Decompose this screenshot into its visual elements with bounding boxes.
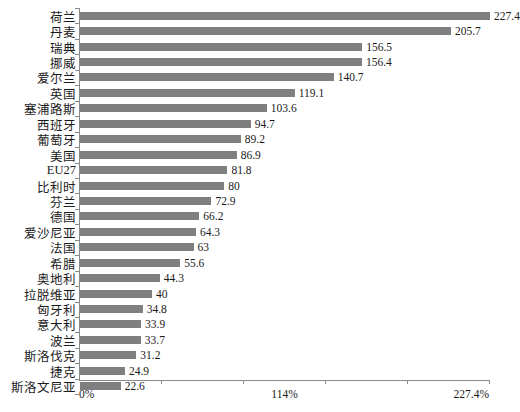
bar — [80, 228, 196, 236]
bar — [80, 58, 362, 66]
bar-value-label: 22.6 — [125, 380, 145, 392]
bar-container: 33.9 — [80, 320, 141, 328]
bar-value-label: 119.1 — [299, 87, 324, 99]
bar-container: 40 — [80, 290, 152, 298]
category-label: 美国 — [50, 145, 76, 164]
bar-value-label: 72.9 — [215, 195, 235, 207]
bar — [80, 212, 199, 220]
x-axis-tick-label: 0% — [79, 388, 94, 400]
bar — [80, 367, 125, 375]
bar-container: 31.2 — [80, 351, 136, 359]
bar — [80, 320, 141, 328]
bar — [80, 73, 334, 81]
bar — [80, 351, 136, 359]
bar-value-label: 24.9 — [129, 365, 149, 377]
bar-value-label: 205.7 — [455, 25, 481, 37]
bar-value-label: 44.3 — [164, 272, 184, 284]
bar-container: 156.4 — [80, 58, 362, 66]
bar-row: 斯洛文尼亚22.6 — [0, 379, 504, 394]
bar-container: 86.9 — [80, 151, 237, 159]
bar-container: 66.2 — [80, 212, 199, 220]
bar — [80, 243, 194, 251]
bar-value-label: 81.8 — [231, 164, 251, 176]
x-axis-tick-label: 114% — [271, 388, 297, 400]
bar-value-label: 33.9 — [145, 318, 165, 330]
bar-value-label: 55.6 — [184, 257, 204, 269]
bar-value-label: 33.7 — [145, 334, 165, 346]
bar — [80, 182, 224, 190]
bar-container: 89.2 — [80, 135, 241, 143]
bar-container: 227.4 — [80, 12, 490, 20]
bar-value-label: 66.2 — [203, 210, 223, 222]
bar — [80, 43, 362, 51]
x-axis-tick-label: 227.4% — [454, 388, 489, 400]
bar-container: 44.3 — [80, 274, 160, 282]
bar-value-label: 64.3 — [200, 226, 220, 238]
bar-container: 72.9 — [80, 197, 211, 205]
bar-row: 美国86.9 — [0, 147, 504, 162]
bar-value-label: 34.8 — [147, 303, 167, 315]
bar-container: 55.6 — [80, 259, 180, 267]
bar-container: 64.3 — [80, 228, 196, 236]
bar — [80, 259, 180, 267]
bar — [80, 135, 241, 143]
bar-value-label: 80 — [228, 180, 240, 192]
bar — [80, 12, 490, 20]
bar — [80, 290, 152, 298]
bar-container: 63 — [80, 243, 194, 251]
bar — [80, 197, 211, 205]
bar-rows: 荷兰227.4丹麦205.7瑞典156.5挪威156.4爱尔兰140.7英国11… — [0, 8, 504, 394]
bar — [80, 27, 451, 35]
bar-container: 24.9 — [80, 367, 125, 375]
bar-container: 205.7 — [80, 27, 451, 35]
bar — [80, 166, 227, 174]
bar-value-label: 156.5 — [366, 41, 392, 53]
bar-value-label: 40 — [156, 288, 168, 300]
category-label: 斯洛文尼亚 — [11, 377, 76, 396]
bar-container: 34.8 — [80, 305, 143, 313]
bar-container: 103.6 — [80, 104, 267, 112]
bar — [80, 120, 251, 128]
bar — [80, 336, 141, 344]
bar — [80, 104, 267, 112]
bar — [80, 151, 237, 159]
bar-value-label: 94.7 — [255, 118, 275, 130]
bar-value-label: 140.7 — [338, 71, 364, 83]
bar-container: 119.1 — [80, 89, 295, 97]
bar-value-label: 89.2 — [245, 133, 265, 145]
bar-container: 81.8 — [80, 166, 227, 174]
bar-value-label: 86.9 — [241, 149, 261, 161]
bar-container: 80 — [80, 182, 224, 190]
bar-value-label: 103.6 — [271, 102, 297, 114]
bar-value-label: 63 — [198, 241, 210, 253]
bar-container: 33.7 — [80, 336, 141, 344]
bar-value-label: 156.4 — [366, 56, 392, 68]
bar — [80, 305, 143, 313]
bar — [80, 89, 295, 97]
bar-container: 140.7 — [80, 73, 334, 81]
bar-container: 94.7 — [80, 120, 251, 128]
bar-value-label: 227.4 — [494, 10, 520, 22]
bar — [80, 274, 160, 282]
bar-container: 156.5 — [80, 43, 362, 51]
bar-value-label: 31.2 — [140, 349, 160, 361]
